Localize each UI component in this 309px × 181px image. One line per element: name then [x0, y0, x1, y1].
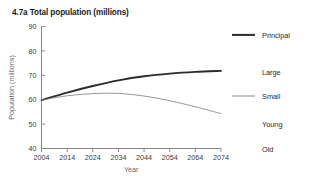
- legend-item-label: Principal: [256, 31, 290, 40]
- legend-item-label: Old: [256, 145, 273, 154]
- legend-line-swatch-icon: [230, 91, 256, 101]
- legend-item-label: Large: [256, 68, 281, 77]
- legend-line-swatch-icon: [230, 144, 256, 154]
- y-axis-label: Population (millions): [7, 55, 16, 120]
- series-lines: [42, 71, 222, 114]
- x-axis-label: Year: [124, 165, 139, 174]
- legend-item-principal[interactable]: Principal: [230, 28, 309, 42]
- y-axis: 405060708090: [29, 22, 46, 153]
- x-axis-tick-label: 2054: [162, 153, 178, 162]
- y-axis-tick-label: 40: [29, 144, 37, 153]
- x-axis: 20042014202420342044205420642074: [34, 149, 230, 163]
- chart-page: 4.7a Total population (millions) 4050607…: [0, 0, 309, 181]
- y-axis-tick-label: 80: [29, 47, 37, 56]
- legend-item-label: Young: [256, 120, 282, 129]
- y-axis-tick-label: 90: [29, 22, 37, 31]
- chart-legend: PrincipalLargeSmallYoungOld: [230, 22, 309, 162]
- x-axis-tick-label: 2014: [59, 153, 75, 162]
- legend-item-label: Small: [256, 92, 280, 101]
- x-axis-tick-label: 2024: [85, 153, 101, 162]
- y-axis-tick-label: 60: [29, 95, 37, 104]
- legend-item-young[interactable]: Young: [230, 117, 309, 131]
- y-axis-tick-label: 50: [29, 120, 37, 129]
- legend-item-old[interactable]: Old: [230, 142, 309, 156]
- series-line-small: [42, 93, 222, 113]
- x-axis-tick-label: 2044: [136, 153, 152, 162]
- legend-line-swatch-icon: [230, 119, 256, 129]
- x-axis-tick-label: 2074: [213, 153, 229, 162]
- legend-item-large[interactable]: Large: [230, 65, 309, 79]
- x-axis-tick-label: 2034: [110, 153, 126, 162]
- legend-item-small[interactable]: Small: [230, 89, 309, 103]
- x-axis-tick-label: 2064: [187, 153, 203, 162]
- legend-line-swatch-icon: [230, 30, 256, 40]
- y-axis-tick-label: 70: [29, 71, 37, 80]
- x-axis-tick-label: 2004: [34, 153, 50, 162]
- legend-line-swatch-icon: [230, 67, 256, 77]
